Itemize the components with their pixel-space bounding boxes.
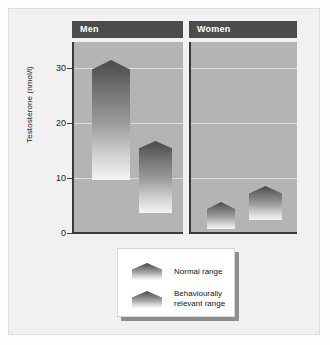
gridline-women-20 [191, 123, 297, 124]
chart-legend: Normal range Behaviourally relevant rang… [117, 248, 235, 317]
legend-item-normal-range: Normal range [118, 257, 236, 281]
y-tick-label-0: 0 [44, 228, 66, 238]
gridline-women-10 [191, 178, 297, 179]
y-tick-label-30: 30 [44, 63, 66, 73]
chart-figure: Testosterone (nmol/l) 30 20 10 0 Men Wom… [0, 0, 330, 345]
bar-women-behavioural-range [249, 186, 282, 220]
bar-men-behavioural-range [139, 141, 172, 213]
gridline-women-30 [191, 68, 297, 69]
y-tick-label-10: 10 [44, 173, 66, 183]
legend-item-behavioural-range: Behaviourally relevant range [118, 285, 236, 313]
bar-men-normal-range [92, 60, 130, 180]
panel-header-men: Men [72, 21, 183, 38]
panel-header-women: Women [189, 21, 297, 38]
y-tick-label-20: 20 [44, 118, 66, 128]
legend-label-behavioural-line2: relevant range [174, 299, 234, 309]
legend-label-behavioural-line1: Behaviourally [174, 289, 234, 299]
plot-panel-women [189, 42, 297, 234]
bar-women-normal-range [207, 202, 235, 229]
plot-panel-men [72, 42, 183, 234]
legend-swatch-normal-range [132, 263, 162, 280]
y-axis-title: Testosterone (nmol/l) [25, 40, 34, 170]
legend-swatch-behavioural-range [132, 291, 162, 308]
legend-label-normal-range: Normal range [174, 267, 232, 277]
